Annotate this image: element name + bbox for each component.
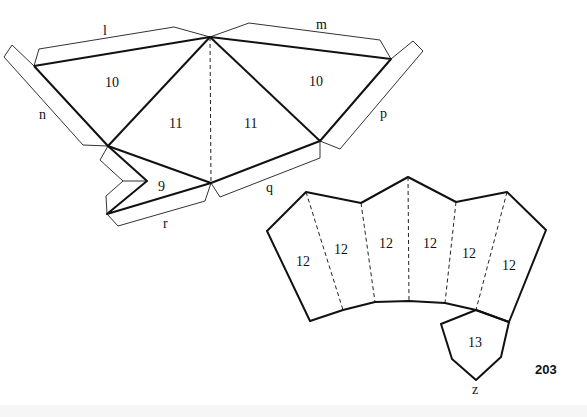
valley-fold-line (408, 177, 409, 301)
flap-n-strip (4, 57, 108, 146)
flap-n-outline (4, 45, 34, 66)
flap-m-label: m (316, 17, 327, 32)
face-12-d-label: 12 (423, 236, 437, 251)
flap-l-outline (34, 27, 210, 66)
flap-p-label: p (380, 106, 387, 121)
face-13-label: 13 (468, 335, 482, 350)
valley-fold-line (361, 203, 375, 302)
top-net-outline (34, 37, 391, 183)
face-12-b-label: 12 (334, 242, 348, 257)
valley-fold-line (210, 37, 211, 183)
top-net: l m n p q r 10 11 11 10 9 (4, 17, 423, 231)
face-11-left-label: 11 (169, 116, 182, 131)
flap-n-label: n (39, 107, 46, 122)
face-10-right-label: 10 (309, 74, 323, 89)
paper-net-diagram: l m n p q r 10 11 11 10 9 12 12 12 12 12… (0, 0, 587, 417)
bottom-net-outline (267, 177, 546, 322)
face-11-right-label: 11 (244, 116, 257, 131)
fold-line (210, 37, 320, 141)
face-10-left-label: 10 (105, 75, 119, 90)
flap-q-label: q (266, 180, 273, 195)
fold-line (108, 37, 210, 146)
tab-z-label: z (472, 382, 478, 397)
face-12-e-label: 12 (462, 246, 476, 261)
face-12-c-label: 12 (379, 236, 393, 251)
flap-l-label: l (103, 23, 107, 38)
face-9-label: 9 (158, 179, 165, 194)
valley-fold-line (476, 192, 507, 310)
flap-r-label: r (163, 216, 168, 231)
face-12-f-label: 12 (502, 258, 516, 273)
valley-fold-line (445, 202, 456, 303)
face-12-a-label: 12 (296, 254, 310, 269)
page-number: 203 (535, 362, 557, 377)
bottom-net: 12 12 12 12 12 12 13 z (267, 177, 546, 397)
